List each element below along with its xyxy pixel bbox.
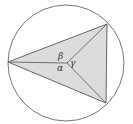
label-alpha: α [57,63,63,73]
label-beta: β [57,51,63,61]
inscribed-triangle-figure: β α γ [0,0,133,124]
diagram: β α γ [0,0,133,124]
label-gamma: γ [70,58,76,68]
